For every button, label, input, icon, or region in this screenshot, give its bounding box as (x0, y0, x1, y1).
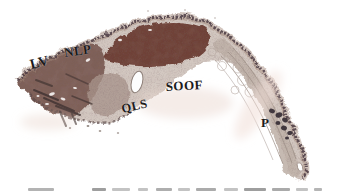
label-p: P (261, 116, 269, 129)
label-nlp: NLP (63, 42, 92, 59)
tissue-micrograph (0, 0, 342, 193)
cropped-caption-line (0, 188, 342, 193)
label-soof: SOOF (165, 78, 203, 93)
figure-panel: LV NLP SOOF QLS P (0, 0, 342, 193)
